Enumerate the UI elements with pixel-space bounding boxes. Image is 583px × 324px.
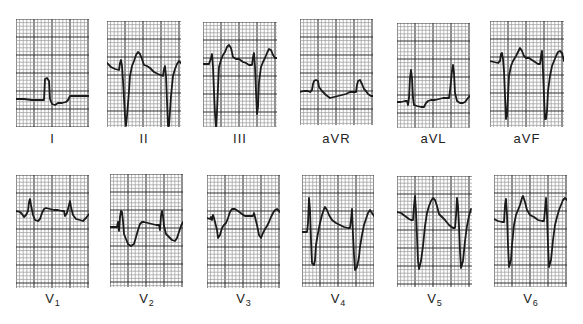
ecg-grid bbox=[490, 21, 564, 127]
lead-label: aVR bbox=[300, 131, 373, 146]
lead-label: V6 bbox=[494, 291, 567, 308]
lead-label: II bbox=[107, 131, 181, 146]
ecg-grid bbox=[16, 175, 89, 288]
lead-panel-i: I bbox=[16, 19, 89, 151]
ecg-grid bbox=[16, 19, 89, 127]
lead-label: III bbox=[203, 131, 277, 146]
ecg-grid bbox=[207, 175, 280, 288]
lead-label: V5 bbox=[397, 291, 472, 308]
lead-label: V2 bbox=[110, 291, 183, 308]
lead-label: aVL bbox=[397, 131, 470, 146]
lead-panel-v3: V3 bbox=[207, 175, 280, 311]
lead-panel-iii: III bbox=[203, 22, 277, 151]
lead-label: aVF bbox=[490, 131, 564, 146]
lead-panel-avf: aVF bbox=[490, 21, 564, 151]
ecg-grid bbox=[300, 19, 373, 125]
lead-label: I bbox=[16, 131, 89, 146]
lead-label: V3 bbox=[207, 291, 280, 308]
lead-panel-v5: V5 bbox=[397, 176, 472, 311]
lead-panel-v4: V4 bbox=[302, 175, 374, 311]
ecg-grid bbox=[107, 21, 181, 127]
lead-panel-v6: V6 bbox=[494, 175, 567, 311]
lead-panel-v2: V2 bbox=[110, 174, 183, 311]
lead-panel-v1: V1 bbox=[16, 175, 89, 311]
ecg-grid bbox=[397, 23, 470, 128]
lead-label: V1 bbox=[16, 291, 89, 308]
lead-panel-avr: aVR bbox=[300, 19, 373, 151]
ecg-grid bbox=[302, 175, 374, 287]
ecg-grid bbox=[397, 176, 472, 287]
ecg-grid bbox=[494, 175, 567, 287]
lead-panel-avl: aVL bbox=[397, 23, 470, 151]
lead-label: V4 bbox=[302, 291, 374, 308]
lead-panel-ii: II bbox=[107, 21, 181, 151]
ecg-grid bbox=[110, 174, 183, 287]
ecg-grid bbox=[203, 22, 277, 127]
